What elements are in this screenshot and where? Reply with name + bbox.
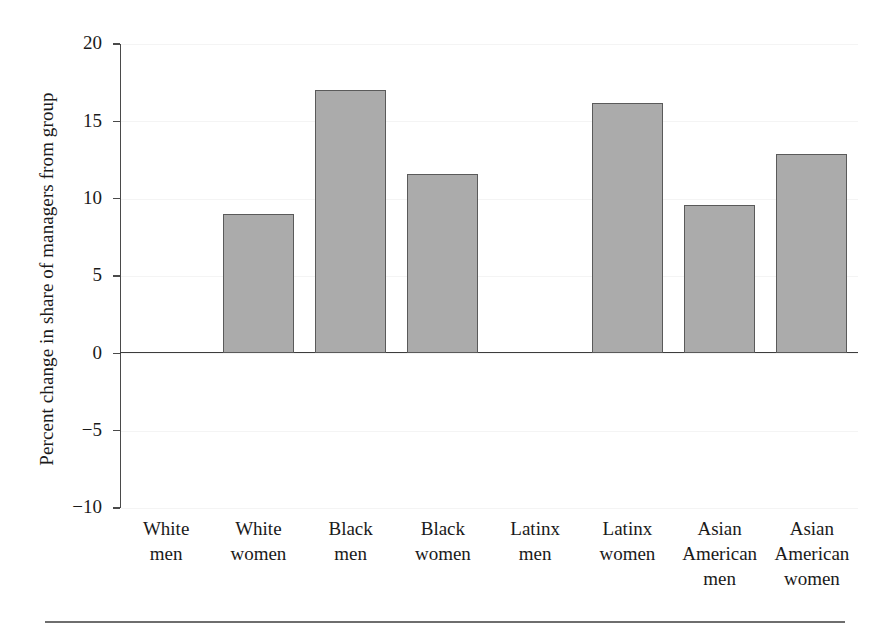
gridline [121,508,858,509]
x-axis-tick-label: Latinxwomen [599,516,655,566]
x-axis-tick-label-line: women [774,566,849,591]
y-axis-tick: 15 [113,121,120,122]
x-axis-tick-label-line: women [415,541,471,566]
x-axis-tick-label-line: American [682,541,757,566]
y-axis-tick-label: −5 [82,419,102,441]
y-axis-tick-label: 0 [93,342,103,364]
x-axis-tick-label-line: men [510,541,560,566]
x-axis-tick-label-line: White [230,516,286,541]
y-axis-tick-label: −10 [72,496,102,518]
x-axis-tick-label-line: Black [415,516,471,541]
x-axis-tick-label-line: Asian [682,516,757,541]
x-axis-tick-label: Blackwomen [415,516,471,566]
x-axis-tick-label-line: Latinx [599,516,655,541]
x-axis-tick-label: AsianAmericanwomen [774,516,849,591]
x-axis-tick-label: Latinxmen [510,516,560,566]
y-axis-tick: −5 [113,430,120,431]
gridline [121,353,858,354]
y-axis-tick: 5 [113,275,120,276]
x-axis-tick-label-line: women [599,541,655,566]
bar [407,174,478,353]
x-axis-tick-label-line: American [774,541,849,566]
x-axis-tick-label: Blackmen [328,516,372,566]
y-axis-tick: −10 [113,507,120,508]
bar [776,154,847,354]
bar [684,205,755,353]
x-axis-tick-label: Whitemen [143,516,189,566]
y-axis-tick-label: 10 [83,187,102,209]
gridline [121,431,858,432]
y-axis-tick: 0 [113,353,120,354]
x-axis-tick-label-line: men [143,541,189,566]
gridline [121,199,858,200]
x-axis-tick-label: Whitewomen [230,516,286,566]
x-axis-tick-label-line: White [143,516,189,541]
bottom-rule [45,621,845,623]
y-axis-tick: 20 [113,43,120,44]
x-axis-tick-label-line: Latinx [510,516,560,541]
gridline [121,44,858,45]
gridline [121,121,858,122]
bar [592,103,663,354]
x-axis-tick-label-line: women [230,541,286,566]
y-axis-tick-label: 20 [83,32,102,54]
y-axis-tick: 10 [113,198,120,199]
bar [223,214,294,353]
x-axis-tick-label: AsianAmericanmen [682,516,757,591]
y-axis-title: Percent change in share of managers from… [36,44,58,514]
bar [315,90,386,353]
x-axis-tick-label-line: men [682,566,757,591]
x-axis-tick-label-line: men [328,541,372,566]
bar-chart-figure: Percent change in share of managers from… [0,0,883,633]
plot-area: 20151050−5−10 WhitemenWhitewomenBlackmen… [120,44,858,508]
x-axis-tick-label-line: Black [328,516,372,541]
y-axis-tick-label: 15 [83,110,102,132]
y-axis-tick-label: 5 [93,264,103,286]
x-axis-tick-label-line: Asian [774,516,849,541]
